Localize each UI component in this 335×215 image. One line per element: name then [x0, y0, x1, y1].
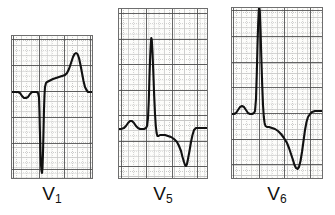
- lead-label-v5: V5: [118, 184, 208, 203]
- ecg-trace-v1: [11, 35, 93, 179]
- lead-label-v1: V1: [11, 184, 93, 203]
- ecg-trace-v5: [118, 8, 208, 179]
- ecg-panel-v1: [11, 35, 93, 179]
- ecg-waveform-path-v5: [118, 38, 208, 166]
- ecg-panel-v5: [118, 8, 208, 179]
- lead-label-v5-subscript: 5: [166, 192, 173, 206]
- ecg-figure: V1 V5 V6: [0, 0, 335, 215]
- ecg-trace-v6: [231, 7, 323, 179]
- lead-label-v6: V6: [231, 184, 323, 203]
- lead-label-v1-text: V: [42, 183, 55, 204]
- ecg-waveform-path-v6: [231, 7, 323, 169]
- ecg-waveform-path-v1: [11, 53, 93, 173]
- lead-label-v5-text: V: [153, 183, 166, 204]
- ecg-panel-v6: [231, 7, 323, 179]
- lead-label-v6-text: V: [267, 183, 280, 204]
- lead-label-v6-subscript: 6: [280, 192, 287, 206]
- lead-label-v1-subscript: 1: [55, 192, 62, 206]
